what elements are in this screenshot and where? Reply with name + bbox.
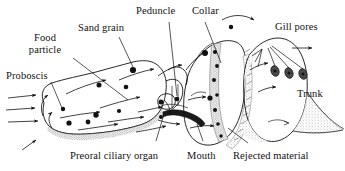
label-food-particle-line2: particle <box>29 44 61 55</box>
label-preoral-ciliary-organ: Preoral ciliary organ <box>70 150 158 162</box>
label-food-particle: Food particle <box>22 32 68 55</box>
label-food-particle-line1: Food <box>34 32 56 43</box>
label-peduncle: Peduncle <box>136 5 175 17</box>
label-sand-grain: Sand grain <box>78 22 124 34</box>
label-collar: Collar <box>192 5 219 17</box>
preoral-ciliary-band <box>47 107 164 140</box>
trunk-shading <box>242 52 344 142</box>
label-gill-pores: Gill pores <box>275 21 318 33</box>
leader-food-particle <box>73 58 128 100</box>
gill-pores-group <box>270 65 309 81</box>
label-trunk: Trunk <box>297 88 323 100</box>
label-rejected-material: Rejected material <box>233 150 308 162</box>
label-mouth: Mouth <box>187 150 216 162</box>
leader-proboscis <box>51 82 62 108</box>
acorn-worm-feeding-diagram: Food particle Sand grain Peduncle Collar… <box>0 0 345 171</box>
mouth-opening <box>161 104 205 127</box>
leader-sand-grain <box>119 37 133 67</box>
leader-mouth <box>197 124 203 141</box>
leader-peduncle <box>169 22 177 96</box>
label-proboscis: Proboscis <box>6 70 48 82</box>
